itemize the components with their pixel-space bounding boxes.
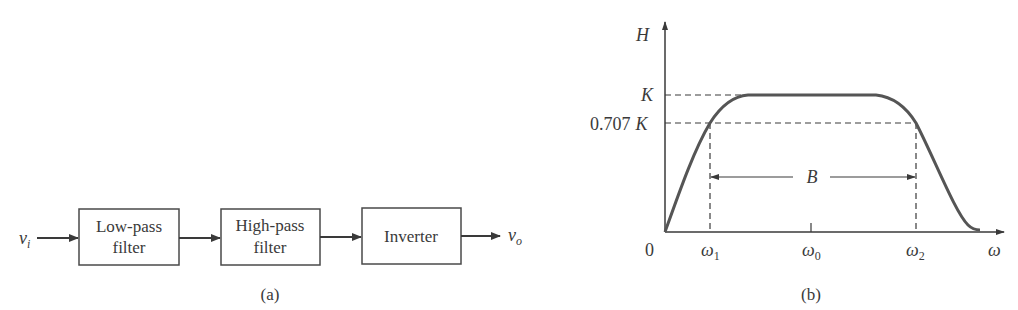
origin-label: 0: [645, 240, 654, 260]
caption-b: (b): [801, 285, 821, 304]
x-axis-label: ω: [988, 240, 1001, 260]
y-axis-label: H: [635, 25, 650, 45]
input-signal-label: vi: [19, 228, 30, 251]
inverter-block: Inverter: [362, 208, 461, 264]
omega1-label: ω1: [701, 240, 720, 263]
high-pass-label-line1: High-pass: [236, 216, 305, 235]
dashed-guides: [665, 95, 916, 232]
k-label: K: [640, 85, 654, 105]
output-signal-label: vo: [508, 225, 522, 248]
k707-label: 0.707K: [590, 114, 649, 134]
frequency-response-plot: H ω 0 K 0.707K B ω1 ω0 ω2: [590, 22, 1004, 304]
inverter-label: Inverter: [384, 227, 438, 246]
block-diagram: vi Low-pass filter High-pass filter Inve…: [19, 208, 522, 304]
omega0-label: ω0: [802, 240, 821, 263]
bandwidth-label: B: [807, 167, 818, 187]
caption-a: (a): [261, 285, 280, 304]
omega2-label: ω2: [906, 240, 925, 263]
low-pass-label-line2: filter: [112, 238, 145, 257]
low-pass-filter-block: Low-pass filter: [79, 209, 179, 265]
high-pass-label-line2: filter: [253, 238, 286, 257]
figure-canvas: vi Low-pass filter High-pass filter Inve…: [0, 0, 1018, 310]
low-pass-label-line1: Low-pass: [96, 217, 162, 236]
high-pass-filter-block: High-pass filter: [221, 209, 320, 265]
response-curve: [665, 95, 980, 232]
